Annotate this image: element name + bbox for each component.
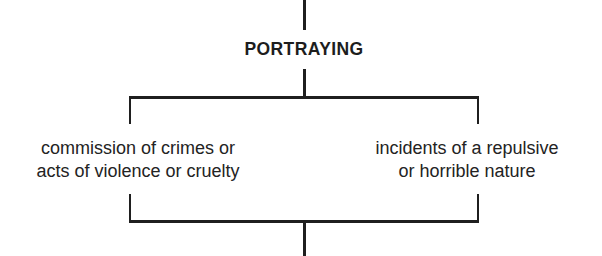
branch-right-node: incidents of a repulsive or horrible nat… [334,137,600,184]
branch-right-line-1: incidents of a repulsive [334,137,600,160]
branch-left-node: commission of crimes or acts of violence… [2,137,274,184]
branch-left-line-1: commission of crimes or [2,137,274,160]
root-node-label: PORTRAYING [154,38,454,61]
diagram-canvas: PORTRAYING commission of crimes or acts … [0,0,602,256]
branch-left-line-2: acts of violence or cruelty [2,160,274,183]
branch-right-line-2: or horrible nature [334,160,600,183]
